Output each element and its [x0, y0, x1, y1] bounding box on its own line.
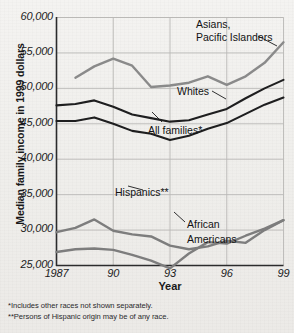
series-label-african-line2: Americans [187, 233, 237, 245]
footnotes: *Includes other races not shown separate… [8, 300, 292, 322]
y-axis-tick-labels: 60,00055,00050,00045,00040,00035,00030,0… [0, 0, 53, 333]
series-label-all-families: All families* [148, 124, 202, 136]
y-axis-title: Median family income in 1999 dollars [14, 18, 26, 250]
series-label-asians-line1: Asians, [196, 18, 230, 30]
footnote-1: *Includes other races not shown separate… [8, 300, 292, 311]
gridlines [57, 18, 284, 266]
y-tick-label: 30,000 [0, 222, 53, 234]
footnote-2: **Persons of Hispanic origin may be of a… [8, 311, 292, 322]
y-tick-label: 35,000 [0, 187, 53, 199]
y-tick-label: 50,000 [0, 80, 53, 92]
series-label-african-line1: African [187, 218, 220, 230]
series-label-asians-line2: Pacific Islanders [196, 31, 272, 43]
x-tick-label: 99 [278, 267, 290, 279]
x-tick-label: 90 [107, 267, 119, 279]
series-label-whites: Whites [177, 85, 209, 97]
x-tick-label: 96 [221, 267, 233, 279]
y-tick-label: 40,000 [0, 151, 53, 163]
y-tick-label: 55,000 [0, 45, 53, 57]
y-tick-label: 60,000 [0, 10, 53, 22]
series-label-hispanics: Hispanics** [115, 186, 169, 198]
x-tick-label: 1987 [45, 267, 69, 279]
x-axis-title: Year [56, 280, 284, 292]
y-tick-label: 45,000 [0, 116, 53, 128]
x-tick-label: 93 [164, 267, 176, 279]
income-line-chart: 60,00055,00050,00045,00040,00035,00030,0… [0, 0, 294, 333]
